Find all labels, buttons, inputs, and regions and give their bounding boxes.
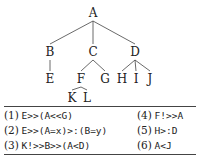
- tree-edge-f-k: [72, 87, 81, 90]
- table-row: (3) K!>>B>>(A<D) (6) A<J: [4, 139, 196, 154]
- expression-text: F!>>A: [155, 110, 184, 121]
- expression-text: E>>(A=x)>:(B=y): [22, 125, 108, 136]
- expression-1: (1) E>>(A<<G): [4, 109, 73, 121]
- expression-text: A<J: [155, 140, 172, 151]
- item-number: (1): [4, 109, 19, 121]
- expression-text: H>:D: [155, 125, 178, 136]
- expression-text: K!>>B>>(A<D): [22, 140, 91, 151]
- tree-node-i: I: [134, 73, 139, 85]
- tree-edge-d-h: [122, 60, 135, 71]
- item-number: (3): [4, 139, 19, 151]
- tree-diagram: ABCDEFGHIJKL: [0, 0, 200, 106]
- tree-node-f: F: [77, 73, 85, 85]
- expression-2: (2) E>>(A=x)>:(B=y): [4, 124, 107, 136]
- tree-edge-c-g: [93, 60, 105, 71]
- tree-edge-d-j: [135, 60, 150, 71]
- item-number: (5): [137, 124, 152, 136]
- tree-node-a: A: [89, 7, 98, 19]
- expression-6: (6) A<J: [137, 139, 172, 151]
- item-number: (4): [137, 109, 152, 121]
- tree-node-k: K: [68, 92, 77, 104]
- tree-node-g: G: [100, 73, 110, 85]
- tree-node-d: D: [130, 46, 140, 58]
- item-number: (2): [4, 124, 19, 136]
- table-row: (1) E>>(A<<G) (4) F!>>A: [4, 109, 196, 124]
- tree-edge-a-d: [93, 21, 135, 44]
- tree-node-e: E: [46, 73, 55, 85]
- expression-text: E>>(A<<G): [22, 110, 73, 121]
- expression-5: (5) H>:D: [137, 124, 177, 136]
- tree-edge-d-i: [135, 60, 136, 71]
- tree-edges: [0, 0, 200, 106]
- expression-3: (3) K!>>B>>(A<D): [4, 139, 90, 151]
- tree-edge-a-b: [50, 21, 93, 44]
- expression-4: (4) F!>>A: [137, 109, 183, 121]
- tree-node-l: L: [83, 92, 91, 104]
- tree-node-b: B: [46, 46, 55, 58]
- tree-node-j: J: [148, 73, 153, 85]
- tree-edge-f-l: [81, 87, 87, 90]
- table-row: (2) E>>(A=x)>:(B=y) (5) H>:D: [4, 124, 196, 139]
- tree-edge-c-f: [81, 60, 93, 71]
- tree-node-c: C: [88, 46, 97, 58]
- expression-table: (1) E>>(A<<G) (4) F!>>A (2) E>>(A=x)>:(B…: [4, 106, 196, 155]
- tree-node-h: H: [117, 73, 127, 85]
- item-number: (6): [137, 139, 152, 151]
